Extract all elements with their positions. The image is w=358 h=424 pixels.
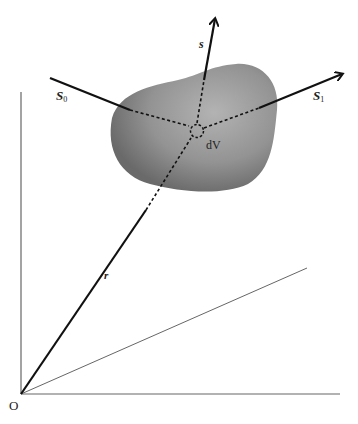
label-s-direction: s xyxy=(198,37,204,51)
label-s0: S0 xyxy=(56,88,67,104)
label-dv: dV xyxy=(206,138,221,152)
label-origin: O xyxy=(9,398,18,413)
label-r: r xyxy=(104,269,109,281)
label-s1: S1 xyxy=(313,88,324,104)
radiative-transfer-diagram: S0 s S1 dV r O xyxy=(0,0,358,424)
medium-volume-blob xyxy=(111,64,278,192)
